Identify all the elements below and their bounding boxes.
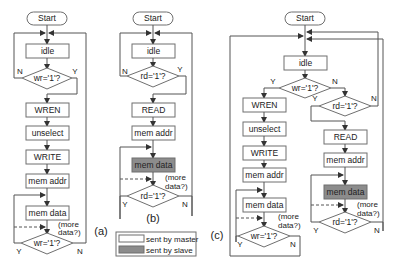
a-wren-label: WREN	[35, 105, 61, 115]
legend-master-swatch	[119, 235, 144, 242]
a-memaddr-label: mem addr	[28, 176, 66, 186]
a-unselect-label: unselect	[32, 128, 64, 138]
b-memdata-label: mem data	[135, 160, 173, 170]
c-w-more-data-2: data?)	[278, 221, 301, 230]
c-read-label: READ	[334, 132, 358, 142]
c-wr-yes: Y	[270, 77, 276, 86]
c-r-more-data-2: data?)	[357, 209, 380, 218]
b-more-data-1: (more	[165, 173, 186, 182]
b-more-data-2: data?)	[165, 182, 188, 191]
legend-slave-swatch	[119, 246, 144, 253]
a-start-label: Start	[38, 13, 57, 23]
a-d2-no: N	[77, 247, 83, 256]
caption-b: (b)	[146, 212, 159, 224]
c-rd-yes: Y	[312, 94, 318, 103]
b-d1-yes: Y	[177, 65, 183, 74]
b-idle-label: idle	[147, 46, 161, 56]
c-start-label: Start	[296, 13, 315, 23]
c-rl-yes: Y	[313, 226, 319, 235]
legend-master-label: sent by master	[146, 235, 199, 244]
b-read-label: READ	[142, 105, 166, 115]
c-wl-yes: Y	[237, 240, 243, 249]
b-memaddr-label: mem addr	[134, 128, 172, 138]
a-decision-wr-loop-label: wr='1'?	[33, 238, 61, 248]
b-decision-rd-loop-label: rd='1'?	[140, 191, 165, 201]
c-wr-no: N	[332, 77, 338, 86]
c-write-label: WRITE	[251, 148, 279, 158]
c-r-memaddr-label: mem addr	[326, 155, 364, 165]
c-unselect-label: unselect	[249, 124, 281, 134]
flowchart-b: Start idle rd='1'? N Y READ mem addr mem…	[120, 12, 192, 224]
b-d2-yes: Y	[122, 200, 128, 209]
a-idle-label: idle	[41, 46, 55, 56]
flowchart-c: (c) Start idle wr='1'? Y N rd='1'? Y N W…	[211, 12, 383, 256]
c-decision-rd-loop-label: rd='1'?	[332, 217, 357, 227]
a-more-data-2: data?)	[58, 228, 81, 237]
c-w-memdata-label: mem data	[246, 200, 284, 210]
flowchart-figure: Start idle wr='1'? N Y WREN unselect WRI…	[0, 0, 395, 272]
a-d1-yes: Y	[72, 67, 78, 76]
legend: sent by master sent by slave	[116, 232, 199, 256]
flowchart-a: Start idle wr='1'? N Y WREN unselect WRI…	[14, 12, 108, 256]
b-d1-no: N	[122, 67, 128, 76]
c-r-more-data-1: (more	[357, 200, 378, 209]
c-decision-rd-label: rd='1'?	[332, 101, 357, 111]
c-rd-no: N	[371, 94, 377, 103]
b-decision-rd-label: rd='1'?	[140, 71, 165, 81]
a-memdata-label: mem data	[29, 208, 67, 218]
c-wl-no: N	[290, 240, 296, 249]
c-w-memaddr-label: mem addr	[245, 170, 283, 180]
c-r-memdata-label: mem data	[327, 187, 365, 197]
legend-slave-label: sent by slave	[146, 246, 193, 255]
c-idle-label: idle	[299, 58, 313, 68]
caption-a: (a)	[94, 225, 107, 237]
c-decision-wr-label: wr='1'?	[291, 83, 319, 93]
b-d2-no: N	[182, 200, 188, 209]
c-wren-label: WREN	[252, 100, 278, 110]
c-rl-no: N	[374, 226, 380, 235]
c-decision-wr-loop-label: wr='1'?	[250, 231, 278, 241]
a-d1-no: N	[17, 67, 23, 76]
b-start-label: Start	[144, 13, 163, 23]
a-write-label: WRITE	[34, 152, 62, 162]
a-decision-wr-label: wr='1'?	[33, 73, 61, 83]
c-w-more-data-1: (more	[278, 212, 299, 221]
a-d2-yes: Y	[16, 247, 22, 256]
caption-c: (c)	[211, 229, 224, 241]
